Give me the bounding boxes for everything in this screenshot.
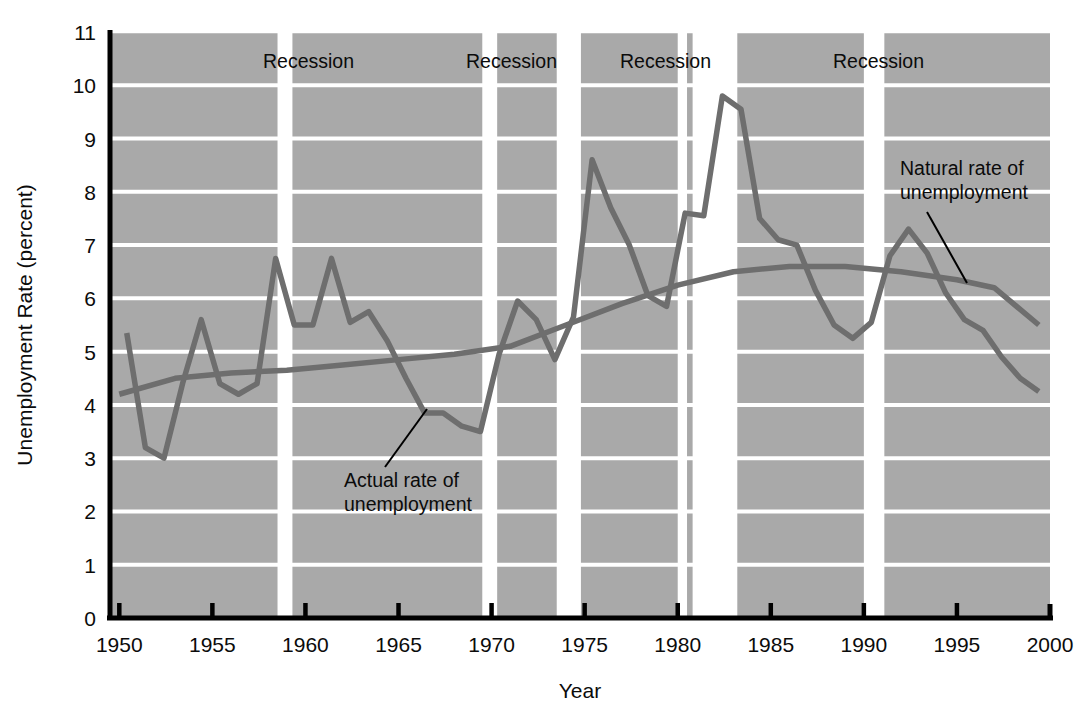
annotation-natural-rate-line1: Natural rate of <box>900 157 1024 179</box>
recession-band-0 <box>278 32 293 618</box>
recession-label-2: Recession <box>620 50 711 72</box>
recession-band-3 <box>678 32 687 618</box>
recession-band-4 <box>693 32 738 618</box>
recession-label-3: Recession <box>833 50 924 72</box>
y-tick-label-10: 10 <box>73 74 96 97</box>
recession-label-0: Recession <box>263 50 354 72</box>
x-tick-label-1975: 1975 <box>561 633 608 656</box>
y-tick-label-8: 8 <box>84 181 96 204</box>
y-tick-label-0: 0 <box>84 607 96 630</box>
y-tick-label-11: 11 <box>74 21 96 44</box>
chart-figure: 0123456789101119501955196019651970197519… <box>0 0 1089 719</box>
x-tick-label-1970: 1970 <box>468 633 515 656</box>
y-tick-label-2: 2 <box>84 500 96 523</box>
y-tick-label-4: 4 <box>84 394 96 417</box>
recession-band-1 <box>482 32 497 618</box>
x-tick-label-1980: 1980 <box>654 633 701 656</box>
x-tick-label-1955: 1955 <box>189 633 236 656</box>
x-tick-label-1965: 1965 <box>375 633 422 656</box>
x-tick-label-1995: 1995 <box>934 633 981 656</box>
x-tick-label-1960: 1960 <box>282 633 329 656</box>
y-tick-label-5: 5 <box>84 341 96 364</box>
x-tick-label-1990: 1990 <box>841 633 888 656</box>
y-tick-label-6: 6 <box>84 287 96 310</box>
y-tick-label-1: 1 <box>84 554 96 577</box>
annotation-actual-rate-line1: Actual rate of <box>344 469 459 491</box>
y-tick-label-3: 3 <box>84 447 96 470</box>
y-tick-label-9: 9 <box>84 128 96 151</box>
y-axis-title: Unemployment Rate (percent) <box>13 184 36 465</box>
annotation-natural-rate-line2: unemployment <box>900 181 1028 203</box>
x-tick-label-1950: 1950 <box>96 633 143 656</box>
recession-label-1: Recession <box>466 50 557 72</box>
x-tick-label-2000: 2000 <box>1027 633 1074 656</box>
x-tick-label-1985: 1985 <box>747 633 794 656</box>
x-axis-title: Year <box>559 679 601 702</box>
unemployment-rate-chart: 0123456789101119501955196019651970197519… <box>0 0 1089 719</box>
annotation-actual-rate-line2: unemployment <box>344 493 472 515</box>
y-tick-label-7: 7 <box>84 234 96 257</box>
